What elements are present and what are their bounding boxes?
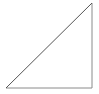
triangle-hypotenuse-edge [6,3,92,88]
right-triangle-figure [0,0,99,94]
figure-canvas [0,0,99,94]
